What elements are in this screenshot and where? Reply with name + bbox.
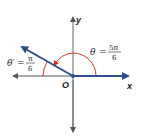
x-axis-label: x <box>126 81 133 91</box>
reference-theta-numerator: π <box>28 55 33 63</box>
reference-theta-symbol: θ′ <box>7 58 14 68</box>
origin-label: O <box>62 80 69 90</box>
reference-theta-denominator: 6 <box>28 65 33 73</box>
angle-diagram: y x O θ = 5π 6 θ′ = π 6 <box>0 0 141 137</box>
theta-numerator: 5π <box>109 44 118 52</box>
origin-point <box>71 74 75 78</box>
y-axis-label: y <box>75 15 82 25</box>
reference-arc <box>43 62 47 76</box>
theta-symbol: θ <box>90 47 96 57</box>
reference-theta-equals: = <box>17 58 25 68</box>
theta-equals: = <box>99 47 107 57</box>
theta-denominator: 6 <box>112 54 117 62</box>
